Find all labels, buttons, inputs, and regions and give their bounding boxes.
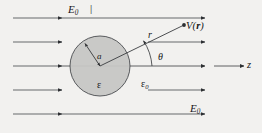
diagram-canvas — [0, 0, 262, 133]
label-permittivity-inside: ε — [97, 80, 101, 90]
label-potential-v-of-r: V(r) — [186, 21, 204, 32]
figure-container: E0 | E0 V(r) r θ a ε ε0 z — [0, 0, 262, 133]
field-lines-left — [13, 18, 62, 114]
label-radius-r: r — [148, 30, 152, 40]
label-z-axis: z — [247, 60, 251, 71]
label-field-top-tick: | — [90, 3, 92, 14]
label-field-top: E0 — [68, 4, 78, 17]
label-field-bottom: E0 — [190, 103, 200, 116]
label-angle-theta: θ — [158, 52, 163, 62]
label-permittivity-outside: ε0 — [141, 79, 149, 90]
label-sphere-radius-a: a — [97, 52, 102, 61]
